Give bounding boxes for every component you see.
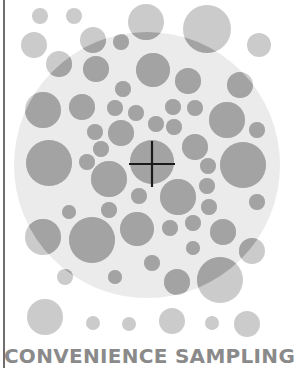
- sample-unit-circle-in-population: [165, 99, 181, 115]
- sample-unit-circle-in-population: [79, 154, 95, 170]
- sample-unit-circle-in-population: [91, 161, 127, 197]
- sample-unit-circle-in-population: [131, 188, 147, 204]
- diagram-caption: CONVENIENCE SAMPLING: [0, 344, 299, 368]
- sample-unit-circle: [247, 33, 271, 57]
- sample-unit-circle-in-population: [164, 269, 190, 295]
- sample-unit-circle-in-population: [26, 140, 72, 186]
- sample-unit-circle-in-population: [166, 119, 182, 135]
- sample-unit-circle-in-population: [128, 105, 144, 121]
- sample-unit-circle-in-population: [160, 179, 196, 215]
- sample-unit-circle-in-population: [249, 194, 265, 210]
- sample-unit-circle-in-population: [201, 199, 217, 215]
- sample-unit-circle-in-population: [107, 100, 123, 116]
- sample-unit-circle-in-population: [148, 116, 164, 132]
- sample-unit-circle: [21, 32, 47, 58]
- sample-unit-circle-in-population: [187, 100, 203, 116]
- sample-unit-circle-in-population: [115, 81, 131, 97]
- sample-unit-circle-in-population: [144, 255, 160, 271]
- sample-unit-circle: [27, 299, 63, 335]
- sample-unit-circle: [122, 317, 136, 331]
- sample-unit-circle-in-population: [120, 212, 154, 246]
- sample-unit-circle-in-population: [186, 241, 200, 255]
- sample-unit-circle-in-population: [62, 205, 76, 219]
- sample-unit-circle-in-population: [182, 134, 208, 160]
- sample-unit-circle-in-population: [101, 202, 117, 218]
- sample-unit-circle-in-population: [136, 53, 170, 87]
- sample-unit-circle-in-population: [209, 102, 245, 138]
- sample-unit-circle-in-population: [200, 158, 216, 174]
- sample-unit-circle: [66, 8, 82, 24]
- sample-unit-circle-in-population: [249, 122, 265, 138]
- sample-unit-circle-in-population: [69, 217, 115, 263]
- sample-unit-circle-in-population: [69, 94, 95, 120]
- sample-unit-circle-in-population: [162, 220, 178, 236]
- sample-unit-circle-in-population: [210, 219, 236, 245]
- sampling-diagram: [0, 0, 299, 340]
- sample-unit-circle-in-population: [83, 56, 109, 82]
- sample-unit-circle: [159, 308, 185, 334]
- sample-unit-circle: [205, 316, 219, 330]
- sample-unit-circle: [86, 316, 100, 330]
- sample-unit-circle-in-population: [175, 68, 201, 94]
- sample-unit-circle-in-population: [199, 178, 215, 194]
- sample-unit-circle-in-population: [108, 270, 122, 284]
- sample-unit-circle-in-population: [108, 120, 134, 146]
- sample-unit-circle-in-population: [113, 34, 129, 50]
- sample-unit-circle-in-population: [185, 215, 201, 231]
- sample-unit-circle: [234, 311, 260, 337]
- sample-unit-circle: [32, 8, 48, 24]
- sample-unit-circle-in-population: [220, 142, 266, 188]
- sample-unit-circle-in-population: [93, 141, 109, 157]
- sample-unit-circle-in-population: [87, 124, 103, 140]
